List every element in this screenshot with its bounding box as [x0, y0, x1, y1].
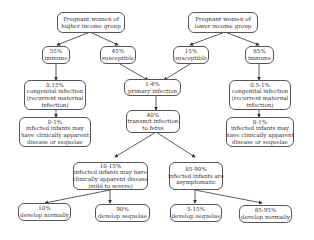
node-text: 15%: [185, 48, 197, 55]
node-text: 85-95%: [255, 207, 276, 214]
node-text: susceptible: [102, 55, 134, 62]
node-text: have clinically apparent: [21, 132, 89, 139]
node-text: infected infants may have: [74, 169, 147, 176]
node-text: 55%: [50, 48, 62, 55]
node-text: 85-90%: [185, 166, 206, 173]
higher-congenital-node: 0.15% congenital infection (recurrent ma…: [24, 80, 86, 110]
node-text: 10%: [38, 205, 50, 212]
node-text: congenital infection: [232, 88, 288, 95]
node-text: infection): [41, 102, 68, 109]
higher-income-node: Pregnant women of higher income group: [57, 12, 125, 33]
asymptomatic-normal-node: 85-95% develop normally: [239, 205, 292, 223]
node-text: (recurrent maternal: [27, 95, 84, 102]
node-text: susceptible: [175, 55, 207, 62]
higher-infected-node: 0-1% infected infants may have clinicall…: [19, 117, 91, 147]
asymptomatic-sequelae-node: 5-15% develop sequelae: [170, 204, 222, 222]
node-text: transmit infection: [128, 118, 179, 125]
primary-infection-node: 1-4% primary infection: [124, 79, 181, 96]
node-text: lower income group: [195, 23, 252, 30]
node-text: 90%: [116, 206, 128, 213]
node-text: (recurrent maternal: [232, 95, 289, 102]
node-text: 85%: [253, 48, 265, 55]
node-text: 10-15%: [100, 163, 121, 170]
node-text: develop normally: [20, 212, 69, 219]
node-text: 45%: [112, 48, 124, 55]
node-text: 0.15%: [46, 82, 64, 89]
node-text: immune: [45, 55, 68, 62]
node-text: disease or sequelae: [232, 139, 288, 146]
lower-susceptible-node: 15% susceptible: [173, 46, 209, 64]
higher-immune-node: 55% immune: [42, 46, 70, 64]
node-text: higher income group: [61, 23, 120, 30]
node-text: asymptomatic: [176, 179, 216, 186]
asymptomatic-node: 85-90% infected infants are asymptomatic: [169, 162, 223, 190]
node-text: 0.5-1%: [250, 82, 270, 89]
node-text: 0-1%: [48, 119, 62, 126]
node-text: develop normally: [241, 214, 290, 221]
node-text: develop sequelae: [98, 213, 147, 220]
node-text: infection): [246, 102, 273, 109]
node-text: (mild to severe): [88, 183, 133, 190]
node-text: 0-1%: [253, 119, 267, 126]
node-text: infected infants may: [26, 125, 84, 132]
node-text: to fetus: [142, 125, 164, 132]
lower-congenital-node: 0.5-1% congenital infection (recurrent m…: [229, 80, 291, 110]
lower-infected-node: 0-1% infected infants may have clinicall…: [226, 117, 294, 147]
node-text: have clinically apparent: [226, 132, 294, 139]
apparent-sequelae-node: 90% develop sequelae: [95, 204, 150, 222]
transmit-infection-node: 40% transmit infection to fetus: [126, 110, 180, 133]
higher-susceptible-node: 45% susceptible: [100, 46, 136, 64]
lower-immune-node: 85% immune: [245, 46, 274, 64]
node-text: Pregnant women of: [195, 16, 250, 23]
node-text: congenital infection: [27, 88, 83, 95]
node-text: 40%: [147, 112, 159, 119]
node-text: develop sequelae: [172, 213, 221, 220]
lower-income-node: Pregnant women of lower income group: [188, 12, 258, 33]
node-text: immune: [248, 55, 271, 62]
apparent-normal-node: 10% develop normally: [18, 203, 71, 221]
node-text: Pregnant women of: [63, 16, 118, 23]
node-text: primary infection: [128, 88, 177, 95]
node-text: 1-4%: [145, 81, 159, 88]
node-text: infected infants may: [231, 125, 289, 132]
apparent-disease-node: 10-15% infected infants may have clinica…: [73, 162, 148, 190]
node-text: clinically apparent disease: [73, 176, 149, 183]
node-text: infected infants are: [168, 173, 223, 180]
node-text: 5-15%: [187, 206, 205, 213]
node-text: disease or sequelae: [27, 139, 83, 146]
